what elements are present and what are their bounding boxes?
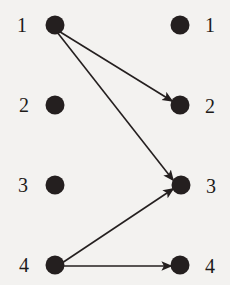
node-label-left-1: 1 — [17, 15, 27, 35]
node-right-2[interactable] — [171, 96, 190, 115]
node-label-right-2: 2 — [205, 96, 215, 116]
graph-edge-L4-to-R3 — [62, 189, 173, 263]
node-label-left-4: 4 — [19, 255, 29, 275]
node-label-right-4: 4 — [205, 256, 215, 276]
node-label-left-3: 3 — [18, 175, 28, 195]
node-label-right-1: 1 — [205, 15, 215, 35]
node-left-1[interactable] — [46, 16, 65, 35]
node-left-4[interactable] — [46, 256, 65, 275]
node-label-left-2: 2 — [19, 95, 29, 115]
node-right-3[interactable] — [172, 176, 191, 195]
edge-layer — [0, 0, 230, 285]
graph-edges — [57, 30, 173, 266]
node-right-4[interactable] — [171, 256, 190, 275]
graph-edge-L1-to-R2 — [57, 30, 172, 101]
graph-edge-L1-to-R3 — [57, 32, 173, 180]
bipartite-graph-figure: 1 2 3 4 1 2 3 4 — [0, 0, 230, 285]
node-left-2[interactable] — [46, 96, 65, 115]
node-label-right-3: 3 — [206, 176, 216, 196]
node-left-3[interactable] — [46, 176, 65, 195]
node-right-1[interactable] — [171, 16, 190, 35]
